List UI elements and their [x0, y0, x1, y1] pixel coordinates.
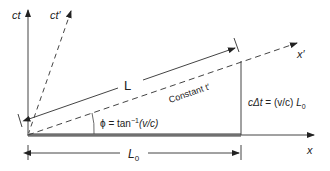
L-right-tick	[234, 38, 239, 52]
x-prime-axis	[28, 43, 297, 135]
length-L-label: L	[124, 78, 131, 93]
c-delta-t-equation: cΔt = (v/c) L0	[248, 97, 306, 110]
x-axis-label: x	[306, 144, 313, 156]
ct-prime-axis	[28, 11, 71, 135]
spacetime-diagram: ct ct′ x x′ L Constant t′ ϕ = tan−1(v/c)…	[0, 0, 330, 171]
length-L-arrow-left	[29, 88, 118, 119]
L0-label: L0	[128, 147, 140, 163]
L-left-tick	[18, 114, 22, 127]
ct-axis-label: ct	[12, 9, 22, 21]
ct-prime-axis-label: ct′	[50, 9, 62, 21]
phi-label: ϕ = tan−1(v/c)	[100, 117, 158, 129]
phi-angle-arc	[92, 113, 94, 134]
length-L-arrow-right	[143, 48, 235, 80]
x-prime-axis-label: x′	[296, 48, 306, 60]
